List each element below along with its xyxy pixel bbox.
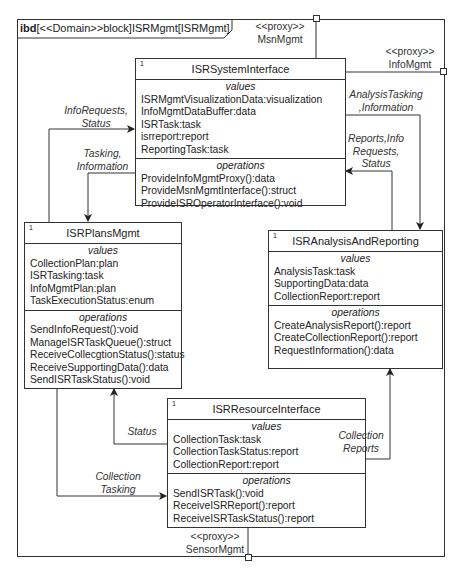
- value-row: AnalysisTask:task: [269, 266, 442, 279]
- value-row: ISRTasking:task: [25, 270, 181, 283]
- operation-row: ReceiveCollecgtionStatus():status: [25, 349, 181, 362]
- value-row: isrreport:report: [136, 131, 345, 144]
- block-name: ISRResourceInterface: [212, 403, 320, 415]
- values-compartment: values AnalysisTask:task SupportingData:…: [269, 252, 442, 306]
- operation-row: CreateCollectionReport():report: [269, 332, 442, 345]
- operation-row: CreateAnalysisReport():report: [269, 320, 442, 333]
- values-compartment: values ISRMgmtVisualizationData:visualiz…: [136, 80, 345, 159]
- flow-label-line: Status: [122, 426, 162, 439]
- value-row: InfoMgmtDataBuffer:data: [136, 106, 345, 119]
- flow-label-status: Status: [122, 426, 162, 439]
- flow-label-collection-tasking: Collection Tasking: [88, 471, 148, 496]
- flow-label-line: InfoRequests,: [56, 105, 136, 118]
- flow-label-line: AnalysisTasking: [346, 89, 426, 102]
- flow-label-line: ,Information: [346, 102, 426, 115]
- operations-compartment: operations CreateAnalysisReport():report…: [269, 306, 442, 359]
- operations-title: operations: [136, 160, 345, 173]
- port-sensor-name: SensorMgmt: [180, 544, 250, 557]
- value-row: ISRTask:task: [136, 119, 345, 132]
- flow-label-line: Requests,: [346, 146, 406, 159]
- operation-row: ReceiveISRTaskStatus():report: [168, 513, 365, 526]
- port-info-stereotype: <<proxy>>: [378, 46, 442, 59]
- operations-compartment: operations ProvideInfoMgmtProxy():data P…: [136, 159, 345, 212]
- port-msn-name: MsnMgmt: [250, 34, 310, 47]
- port-info-name: InfoMgmt: [378, 59, 442, 72]
- flow-label-line: Collection: [334, 430, 388, 443]
- port-msn-mgmt[interactable]: [313, 15, 320, 22]
- port-msn-mgmt-label: <<proxy>> MsnMgmt: [250, 21, 310, 46]
- flow-label-line: Tasking: [88, 484, 148, 497]
- port-msn-stereotype: <<proxy>>: [250, 21, 310, 34]
- values-compartment: values CollectionPlan:plan ISRTasking:ta…: [25, 244, 181, 311]
- operations-title: operations: [269, 307, 442, 320]
- flow-label-line: Status: [56, 118, 136, 131]
- value-row: InfoMgmtPlan:plan: [25, 283, 181, 296]
- block-isr-plans-mgmt[interactable]: 1 ISRPlansMgmt values CollectionPlan:pla…: [24, 222, 182, 389]
- values-title: values: [25, 245, 181, 258]
- operation-row: ProvideISROperatorInterface():void: [136, 198, 345, 211]
- operation-row: SendISRTaskStatus():void: [25, 374, 181, 387]
- values-title: values: [269, 253, 442, 266]
- operation-row: ReceiveSupportingData():data: [25, 362, 181, 375]
- flow-label-reports-info-requests: Reports,Info Requests, Status: [346, 133, 406, 171]
- flow-label-line: Tasking,: [70, 148, 135, 161]
- operation-row: SendISRTask():void: [168, 488, 365, 501]
- port-info-mgmt-label: <<proxy>> InfoMgmt: [378, 46, 442, 71]
- block-isr-resource-interface[interactable]: 1 ISRResourceInterface values Collection…: [167, 398, 366, 528]
- flow-label-info-requests: InfoRequests, Status: [56, 105, 136, 130]
- flow-label-line: Reports: [334, 443, 388, 456]
- value-row: ISRMgmtVisualizationData:visualization: [136, 94, 345, 107]
- operation-row: ProvideMsnMgmtInterface():struct: [136, 185, 345, 198]
- flow-label-tasking-information: Tasking, Information: [70, 148, 135, 173]
- flow-label-line: Collection: [88, 471, 148, 484]
- block-isr-analysis-and-reporting[interactable]: 1 ISRAnalysisAndReporting values Analysi…: [268, 230, 443, 369]
- operation-row: SendInfoRequest():void: [25, 324, 181, 337]
- value-row: SupportingData:data: [269, 278, 442, 291]
- operations-compartment: operations SendISRTask():void ReceiveISR…: [168, 474, 365, 527]
- block-isr-system-interface[interactable]: 1 ISRSystemInterface values ISRMgmtVisua…: [135, 58, 346, 206]
- block-header: 1 ISRSystemInterface: [136, 59, 345, 80]
- flow-label-line: Reports,Info: [346, 133, 406, 146]
- value-row: TaskExecutionStatus:enum: [25, 295, 181, 308]
- block-header: 1 ISRPlansMgmt: [25, 223, 181, 244]
- block-name: ISRSystemInterface: [192, 63, 290, 75]
- multiplicity: 1: [172, 394, 176, 414]
- operation-row: ReceiveISRReport():report: [168, 500, 365, 513]
- port-sensor-stereotype: <<proxy>>: [180, 531, 250, 544]
- operations-title: operations: [168, 475, 365, 488]
- operations-title: operations: [25, 312, 181, 325]
- block-name: ISRPlansMgmt: [66, 227, 139, 239]
- flow-label-analysis-tasking: AnalysisTasking ,Information: [346, 89, 426, 114]
- block-header: 1 ISRResourceInterface: [168, 399, 365, 420]
- multiplicity: 1: [140, 54, 144, 74]
- value-row: CollectionReport:report: [168, 459, 365, 472]
- operation-row: RequestInformation():data: [269, 345, 442, 358]
- flow-label-line: Information: [70, 161, 135, 174]
- frame-title-text: [<<Domain>>block]ISRMgmt[ISRMgmt]: [37, 22, 230, 34]
- diagram-kind: ibd: [20, 22, 37, 34]
- flow-label-line: Status: [346, 158, 406, 171]
- values-title: values: [136, 81, 345, 94]
- value-row: ReportingTask:task: [136, 144, 345, 157]
- value-row: CollectionPlan:plan: [25, 258, 181, 271]
- block-header: 1 ISRAnalysisAndReporting: [269, 231, 442, 252]
- port-sensor-mgmt-label: <<proxy>> SensorMgmt: [180, 531, 250, 556]
- operations-compartment: operations SendInfoRequest():void Manage…: [25, 311, 181, 389]
- multiplicity: 1: [273, 226, 277, 246]
- frame-title: ibd[<<Domain>>block]ISRMgmt[ISRMgmt]: [17, 19, 230, 38]
- multiplicity: 1: [29, 218, 33, 238]
- flow-label-collection-reports: Collection Reports: [334, 430, 388, 455]
- operation-row: ProvideInfoMgmtProxy():data: [136, 173, 345, 186]
- value-row: CollectionReport:report: [269, 291, 442, 304]
- operation-row: ManageISRTaskQueue():struct: [25, 337, 181, 350]
- block-name: ISRAnalysisAndReporting: [292, 235, 419, 247]
